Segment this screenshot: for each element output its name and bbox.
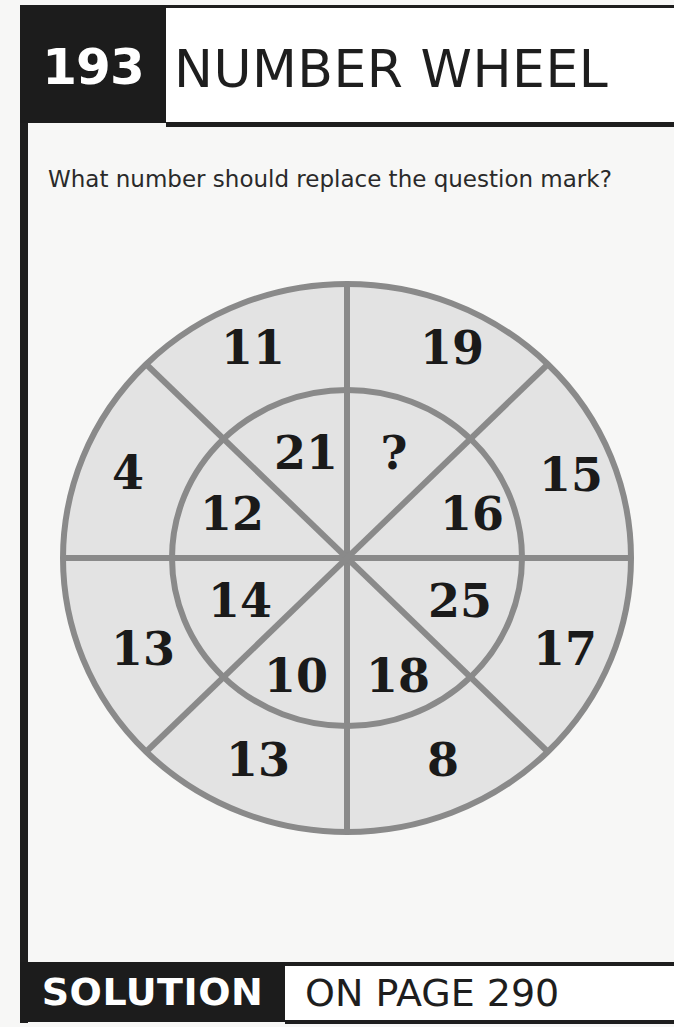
outer-number: 17	[533, 622, 597, 676]
number-wheel: 11 19 15 17 8 13 13 4 21 ? 16 25 18 10 1…	[0, 0, 674, 1027]
inner-number: 12	[200, 487, 264, 541]
solution-label-box: SOLUTION	[20, 962, 285, 1022]
inner-number: 25	[428, 574, 492, 628]
inner-number: 14	[208, 574, 272, 628]
inner-number: 16	[440, 487, 504, 541]
solution-page-ref: ON PAGE 290	[305, 971, 559, 1015]
inner-number: 10	[264, 649, 328, 703]
solution-label: SOLUTION	[42, 970, 264, 1014]
outer-number: 13	[226, 733, 290, 787]
outer-number: 15	[539, 448, 603, 502]
outer-number: 4	[112, 446, 144, 500]
wheel-shapes	[63, 284, 631, 832]
inner-number: 18	[366, 649, 430, 703]
outer-number: 11	[221, 321, 285, 375]
inner-number: 21	[274, 426, 338, 480]
question-mark: ?	[381, 426, 408, 480]
solution-page-bar: ON PAGE 290	[285, 962, 674, 1024]
outer-number: 19	[420, 321, 484, 375]
outer-number: 13	[111, 622, 175, 676]
outer-number: 8	[427, 733, 459, 787]
